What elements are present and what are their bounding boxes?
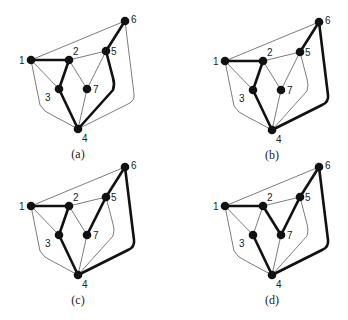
node-label-5: 5 — [305, 47, 311, 58]
node-4 — [74, 271, 83, 280]
node-7 — [277, 86, 286, 95]
caption-c: (c) — [71, 293, 84, 307]
node-label-7: 7 — [287, 85, 293, 96]
node-4 — [268, 271, 277, 280]
node-6 — [315, 163, 324, 172]
path-edge-2-3 — [59, 60, 69, 89]
node-2 — [65, 202, 74, 211]
node-label-1: 1 — [19, 201, 25, 212]
node-7 — [277, 231, 286, 240]
caption-a: (a) — [71, 147, 84, 161]
node-5 — [102, 193, 111, 202]
node-7 — [83, 85, 92, 94]
edge-4-7 — [272, 90, 281, 130]
node-label-2: 2 — [73, 46, 79, 57]
node-label-7: 7 — [93, 84, 99, 95]
edge-2-7 — [69, 206, 87, 235]
node-label-2: 2 — [73, 192, 79, 203]
node-label-6: 6 — [131, 14, 137, 25]
node-label-5: 5 — [111, 46, 117, 57]
node-1 — [221, 202, 230, 211]
node-6 — [315, 18, 324, 27]
edge-4-7 — [78, 235, 87, 275]
graph-panel-d: 1234567(d) — [213, 160, 331, 307]
path-edge-3-4 — [59, 235, 78, 275]
edge-1-4 — [31, 206, 78, 275]
node-label-3: 3 — [239, 238, 245, 249]
node-label-6: 6 — [325, 160, 331, 171]
graph-panel-c: 1234567(c) — [19, 160, 137, 307]
node-6 — [121, 163, 130, 172]
edge-1-4 — [31, 60, 78, 129]
path-edge-3-4 — [253, 90, 272, 130]
edge-1-3 — [225, 206, 253, 235]
node-label-6: 6 — [131, 160, 137, 171]
node-3 — [249, 86, 258, 95]
edge-1-3 — [31, 206, 59, 235]
node-label-4: 4 — [82, 279, 88, 290]
node-label-5: 5 — [111, 192, 117, 203]
node-1 — [221, 57, 230, 66]
node-2 — [259, 57, 268, 66]
node-3 — [249, 231, 258, 240]
path-edge-4-3 — [253, 235, 272, 275]
caption-d: (d) — [265, 293, 279, 307]
node-2 — [259, 202, 268, 211]
node-label-3: 3 — [239, 93, 245, 104]
edge-1-3 — [225, 61, 253, 90]
node-1 — [27, 202, 36, 211]
node-label-3: 3 — [45, 92, 51, 103]
node-label-5: 5 — [305, 192, 311, 203]
node-3 — [55, 231, 64, 240]
node-label-1: 1 — [19, 55, 25, 66]
node-label-3: 3 — [45, 238, 51, 249]
node-label-7: 7 — [287, 230, 293, 241]
edge-4-7 — [272, 235, 281, 275]
graph-panel-a: 1234567(a) — [19, 14, 137, 161]
edge-1-4 — [225, 61, 272, 130]
node-label-2: 2 — [267, 47, 273, 58]
edge-2-3 — [253, 206, 263, 235]
node-label-4: 4 — [82, 133, 88, 144]
graph-panel-b: 1234567(b) — [213, 15, 331, 162]
node-label-1: 1 — [213, 201, 219, 212]
node-5 — [296, 48, 305, 57]
node-2 — [65, 56, 74, 65]
node-1 — [27, 56, 36, 65]
node-5 — [296, 193, 305, 202]
node-label-4: 4 — [276, 134, 282, 145]
node-3 — [55, 85, 64, 94]
path-edge-3-4 — [59, 89, 78, 129]
edge-1-4 — [225, 206, 272, 275]
node-label-6: 6 — [325, 15, 331, 26]
node-5 — [102, 47, 111, 56]
graph-figure: 1234567(a)1234567(b)1234567(c)1234567(d) — [0, 0, 348, 320]
node-label-4: 4 — [276, 279, 282, 290]
node-4 — [74, 125, 83, 134]
edge-2-7 — [69, 60, 87, 89]
node-7 — [83, 231, 92, 240]
node-4 — [268, 126, 277, 135]
path-edge-2-3 — [253, 61, 263, 90]
path-edge-2-7 — [263, 206, 281, 235]
path-edge-2-3 — [59, 206, 69, 235]
node-6 — [121, 17, 130, 26]
caption-b: (b) — [265, 148, 279, 162]
node-label-2: 2 — [267, 192, 273, 203]
edge-1-3 — [31, 60, 59, 89]
node-label-1: 1 — [213, 56, 219, 67]
edge-2-7 — [263, 61, 281, 90]
node-label-7: 7 — [93, 230, 99, 241]
